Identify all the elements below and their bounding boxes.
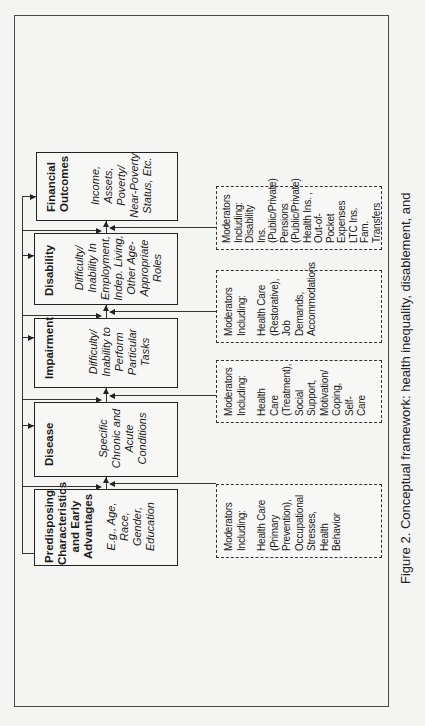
desc-line: Difficulty/ xyxy=(73,232,86,304)
stage-description: Specific Chronic and Acute Conditions xyxy=(97,401,149,476)
moderator-link-impairment xyxy=(112,395,216,396)
desc-line: Gender, xyxy=(131,488,144,565)
stage-box-impairment: Impairment Difficulty/ Inability to Perf… xyxy=(34,318,178,388)
moderator-link-financial xyxy=(112,227,216,228)
stage-title: Financial Outcomes xyxy=(45,156,71,212)
title-line: Characteristics xyxy=(56,488,69,565)
desc-line: Chronic and xyxy=(110,401,123,476)
moderator-box-financial: Moderators Including: Disability Ins. (P… xyxy=(216,186,382,250)
moderator-box-impairment: Moderators Including: Health Care (Treat… xyxy=(216,360,382,423)
moderator-box-disease: Moderators Including: Health Care (Prima… xyxy=(216,484,382,558)
title-line: and Early xyxy=(69,488,82,565)
arrow-bus-disease-icon xyxy=(96,484,102,490)
desc-line: Particular xyxy=(126,317,139,387)
moderator-heading: Moderators Including: xyxy=(221,192,244,243)
moderator-arrow-financial-icon xyxy=(109,225,115,231)
diagram-canvas: Predisposing Characteristics and Early A… xyxy=(0,0,425,726)
moderator-body: Health Care (Treatment), Social Support,… xyxy=(256,366,369,416)
stage-description: Difficulty/ Inability to Perform Particu… xyxy=(87,317,152,387)
desc-line: Inability to xyxy=(100,317,113,387)
stage-title: Predisposing Characteristics and Early A… xyxy=(43,488,95,565)
arrow-into-financial-icon xyxy=(30,194,36,200)
stage-title: Impairment xyxy=(43,317,56,379)
stage-box-financial: Financial Outcomes Income, Assets, Pover… xyxy=(36,152,178,221)
arrow-into-disease-icon xyxy=(28,423,34,429)
figure-caption: Figure 2. Conceptual framework: health i… xyxy=(398,193,413,584)
connector-bus-side-impairment xyxy=(22,399,100,400)
title-line: Advantages xyxy=(82,488,95,565)
moderator-arrow-disease-icon xyxy=(109,481,115,487)
desc-line: Perform xyxy=(113,317,126,387)
title-line: Predisposing xyxy=(43,488,56,565)
connector-bus-side-disability xyxy=(22,315,100,316)
desc-line: Education xyxy=(144,488,157,565)
connector-bus-horizontal xyxy=(22,196,23,554)
title-line: Outcomes xyxy=(58,156,71,212)
connector-bus-side-disease xyxy=(22,486,100,487)
moderator-link-disability xyxy=(112,311,216,312)
desc-line: Specific xyxy=(97,401,110,476)
moderator-body: Health Care (Primary Prevention), Occupa… xyxy=(256,490,344,551)
arrow-into-disability-icon xyxy=(28,253,34,259)
moderator-heading: Moderators Including: xyxy=(223,490,248,551)
stage-box-predisposing: Predisposing Characteristics and Early A… xyxy=(34,489,178,566)
desc-line: Inability In xyxy=(86,232,99,304)
desc-line: Acute xyxy=(123,401,136,476)
desc-line: Difficulty/ xyxy=(87,317,100,387)
stage-box-disease: Disease Specific Chronic and Acute Condi… xyxy=(34,402,178,477)
desc-line: Assets, xyxy=(102,151,115,220)
desc-line: Near-Poverty xyxy=(128,151,141,220)
desc-line: Income, xyxy=(89,151,102,220)
moderator-body: Health Care (Restorative), Job Demands, … xyxy=(256,276,319,336)
arrow-bus-disability-icon xyxy=(96,313,102,319)
connector-bus-side-financial xyxy=(22,230,100,231)
desc-line: Tasks xyxy=(139,317,152,387)
stage-description: Difficulty/ Inability In Employment, Ind… xyxy=(73,232,164,304)
arrow-into-impairment-icon xyxy=(28,335,34,341)
moderator-heading: Moderators Including: xyxy=(223,276,248,336)
stage-box-disability: Disability Difficulty/ Inability In Empl… xyxy=(34,233,178,305)
moderator-tie-disease xyxy=(112,483,113,484)
desc-line: Employment, xyxy=(99,232,112,304)
moderator-link-disease xyxy=(112,483,216,484)
stage-title: Disability xyxy=(43,245,56,296)
stage-title: Disease xyxy=(43,423,56,466)
moderator-body: Disability Ins. (Public/Private) Pension… xyxy=(244,192,382,243)
moderator-arrow-disability-icon xyxy=(109,309,115,315)
desc-line: Indep. Living, xyxy=(112,232,125,304)
desc-line: Poverty/ xyxy=(115,151,128,220)
title-line: Impairment xyxy=(43,317,56,379)
moderator-box-disability: Moderators Including: Health Care (Resto… xyxy=(216,270,382,343)
title-line: Disease xyxy=(43,423,56,466)
desc-line: E.g., Age, Race, xyxy=(105,488,131,565)
stage-description: E.g., Age, Race, Gender, Education xyxy=(105,488,157,565)
moderator-heading: Moderators Including: xyxy=(223,366,248,416)
desc-line: Other Age- xyxy=(125,232,138,304)
title-line: Disability xyxy=(43,245,56,296)
desc-line: Status, Etc. xyxy=(141,151,154,220)
desc-line: Conditions xyxy=(136,401,149,476)
desc-line: Roles xyxy=(151,232,164,304)
stage-description: Income, Assets, Poverty/ Near-Poverty St… xyxy=(89,151,154,220)
arrow-bus-financial-icon xyxy=(96,228,102,234)
moderator-arrow-impairment-icon xyxy=(109,393,115,399)
arrow-bus-impairment-icon xyxy=(96,397,102,403)
desc-line: Appropriate xyxy=(138,232,151,304)
title-line: Financial xyxy=(45,156,58,212)
connector-predisposing-stub xyxy=(22,553,34,554)
